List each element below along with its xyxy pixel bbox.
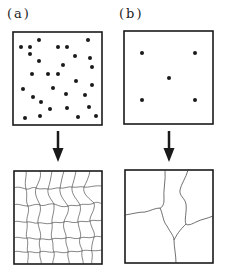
nucleus-dot — [48, 107, 52, 111]
fine-grain-boundaries — [14, 171, 102, 264]
nucleus-dot — [65, 106, 69, 110]
nucleus-dot — [65, 45, 69, 49]
nucleus-dot — [74, 79, 78, 83]
nucleation-diagram — [0, 0, 227, 276]
nuclei-dots-b — [140, 51, 197, 102]
nucleus-dot — [28, 52, 32, 56]
nucleus-dot — [28, 45, 32, 49]
nucleus-dot — [56, 45, 60, 49]
nucleus-dot — [39, 100, 43, 104]
nucleus-dot — [193, 98, 197, 102]
nucleus-dot — [38, 114, 42, 118]
nucleus-dot — [90, 83, 94, 87]
nucleus-dot — [88, 56, 92, 60]
nucleus-dot — [61, 63, 65, 67]
coarse-grain-boundaries — [125, 170, 213, 263]
nucleus-dot — [140, 98, 144, 102]
nucleus-dot — [19, 45, 23, 49]
nucleus-dot — [30, 72, 34, 76]
nucleus-dot — [140, 51, 144, 55]
nucleus-dot — [21, 87, 25, 91]
nucleus-dot — [94, 114, 98, 118]
nucleus-dot — [56, 72, 60, 76]
arrow-down-icon-a — [53, 131, 64, 162]
nucleus-dot — [73, 54, 77, 58]
nucleus-dot — [23, 116, 27, 120]
nucleus-dot — [87, 105, 91, 109]
nucleus-dot — [31, 95, 35, 99]
grain-box-b — [125, 170, 213, 263]
nucleus-dot — [86, 38, 90, 42]
nucleus-dot — [167, 76, 171, 80]
nuclei-dots-a — [19, 38, 98, 120]
nucleus-dot — [83, 93, 87, 97]
nucleus-dot — [37, 38, 41, 42]
nucleus-dot — [64, 92, 68, 96]
arrow-down-icon-b — [164, 131, 175, 162]
nucleus-dot — [37, 59, 41, 63]
nucleus-dot — [193, 51, 197, 55]
nucleus-dot — [51, 86, 55, 90]
nucleus-dot — [46, 72, 50, 76]
nucleus-dot — [90, 65, 94, 69]
nucleus-dot — [76, 115, 80, 119]
